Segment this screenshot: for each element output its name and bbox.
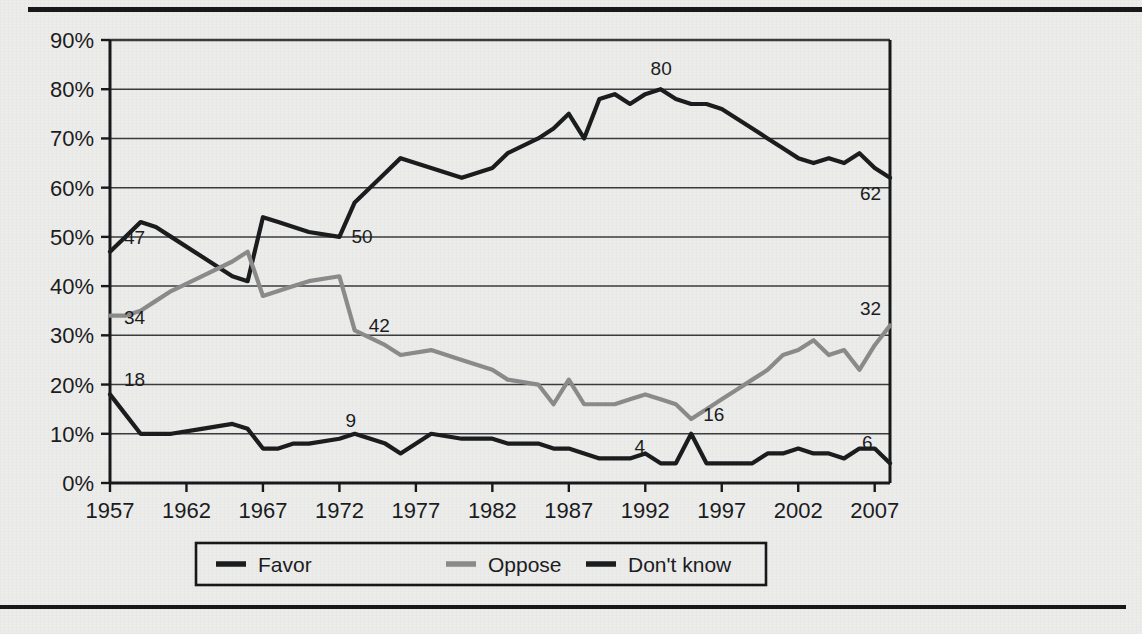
series-line-don-t-know [110,394,890,463]
x-axis-tick-labels: 1957196219671972197719821987199219972002… [86,483,900,523]
x-tick-label-1997: 1997 [697,498,746,523]
y-tick-label-20%: 20% [50,373,94,398]
legend-label-favor: Favor [258,553,312,576]
legend-label-oppose: Oppose [488,553,562,576]
x-tick-label-1982: 1982 [468,498,517,523]
chart-page: 0%10%20%30%40%50%60%70%80%90% 1957196219… [0,0,1142,634]
chart-axes [110,40,890,483]
data-label-oppose-16: 16 [703,404,724,425]
legend-label-don-t-know: Don't know [628,553,732,576]
x-tick-label-1977: 1977 [391,498,440,523]
data-label-favor-80: 80 [651,58,672,79]
y-tick-label-10%: 10% [50,422,94,447]
x-tick-label-2002: 2002 [774,498,823,523]
data-label-oppose-32: 32 [860,298,881,319]
data-label-don-t-know-18: 18 [124,369,145,390]
y-tick-label-70%: 70% [50,126,94,151]
y-tick-label-30%: 30% [50,323,94,348]
line-chart: 0%10%20%30%40%50%60%70%80%90% 1957196219… [0,0,1142,634]
x-tick-label-1972: 1972 [315,498,364,523]
series-line-favor [110,89,890,281]
x-tick-label-1962: 1962 [162,498,211,523]
data-label-oppose-42: 42 [369,315,390,336]
data-label-oppose-34: 34 [124,307,146,328]
x-tick-label-2007: 2007 [850,498,899,523]
data-label-don-t-know-9: 9 [345,410,356,431]
data-series-lines [110,89,890,463]
data-label-favor-50: 50 [351,226,372,247]
y-tick-label-60%: 60% [50,176,94,201]
data-label-don-t-know-4: 4 [635,436,646,457]
y-tick-label-90%: 90% [50,28,94,53]
y-tick-label-80%: 80% [50,77,94,102]
x-tick-label-1957: 1957 [86,498,135,523]
x-tick-label-1992: 1992 [621,498,670,523]
y-tick-label-50%: 50% [50,225,94,250]
y-tick-label-40%: 40% [50,274,94,299]
x-tick-label-1967: 1967 [238,498,287,523]
y-tick-label-0%: 0% [62,471,94,496]
data-label-favor-47: 47 [124,227,145,248]
x-tick-label-1987: 1987 [544,498,593,523]
data-label-don-t-know-6: 6 [862,432,873,453]
y-axis-tick-labels: 0%10%20%30%40%50%60%70%80%90% [50,28,110,496]
chart-legend: FavorOpposeDon't know [196,543,766,585]
data-label-favor-62: 62 [860,183,881,204]
